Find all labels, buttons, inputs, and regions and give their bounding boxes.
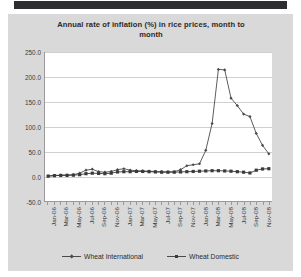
x-axis-tick <box>142 202 143 205</box>
square-marker-icon <box>53 174 56 177</box>
x-axis-tick <box>149 202 150 205</box>
square-marker-icon <box>147 170 150 173</box>
square-marker-icon <box>97 172 100 175</box>
x-axis-tick <box>180 202 181 205</box>
x-axis-tick <box>212 202 213 205</box>
legend-line-sample <box>62 256 81 258</box>
diamond-marker-icon <box>223 68 226 71</box>
square-marker-icon <box>261 167 264 170</box>
x-axis-tick-label: Jul-07 <box>164 207 171 224</box>
square-marker-icon <box>116 170 119 173</box>
square-marker-icon <box>192 170 195 173</box>
square-marker-icon <box>47 175 50 178</box>
x-axis-tick-label: May-08 <box>227 207 234 228</box>
x-axis-tick <box>206 202 207 205</box>
x-axis-tick <box>117 202 118 205</box>
x-axis-tick <box>199 202 200 205</box>
square-marker-icon <box>229 170 232 173</box>
diamond-marker-icon <box>217 68 220 71</box>
x-axis-tick-label: Nov-07 <box>189 207 196 227</box>
square-marker-icon <box>223 169 226 172</box>
x-axis-tick <box>66 202 67 205</box>
square-marker-icon <box>242 171 245 174</box>
x-axis-tick <box>60 202 61 205</box>
square-marker-icon <box>135 170 138 173</box>
x-axis-tick <box>250 202 251 205</box>
square-marker-icon <box>211 169 214 172</box>
y-axis-tick-label: 200.0 <box>25 74 41 81</box>
legend-label: Wheat International <box>84 253 143 260</box>
x-axis-tick <box>104 202 105 205</box>
plot-area <box>44 52 272 202</box>
square-marker-icon <box>198 170 201 173</box>
chart-title: Annual rate of inflation (%) in rice pri… <box>22 20 280 40</box>
diamond-marker-icon <box>198 162 201 165</box>
diamond-marker-icon <box>204 149 207 152</box>
x-axis-tick <box>256 202 257 205</box>
square-marker-icon <box>255 169 258 172</box>
diamond-marker-icon <box>84 169 87 172</box>
diamond-marker-icon <box>255 132 258 135</box>
x-axis-tick-label: Nov-08 <box>265 207 272 227</box>
square-marker-icon <box>175 255 178 258</box>
x-axis-tick <box>263 202 264 205</box>
x-axis-tick <box>237 202 238 205</box>
x-axis-tick <box>269 202 270 205</box>
diamond-marker-icon <box>192 163 195 166</box>
scan-artifact-bar <box>14 1 287 9</box>
x-axis-tick <box>123 202 124 205</box>
square-marker-icon <box>217 169 220 172</box>
x-axis-tick <box>54 202 55 205</box>
x-axis-tick <box>73 202 74 205</box>
x-axis-tick <box>130 202 131 205</box>
x-axis-tick <box>244 202 245 205</box>
series-wheat-international <box>47 68 271 178</box>
y-axis-tick-label: 250.0 <box>25 49 41 56</box>
x-axis-tick <box>111 202 112 205</box>
chart-container: Annual rate of inflation (%) in rice pri… <box>8 14 293 271</box>
chart-legend: Wheat International Wheat Domestic <box>8 253 293 260</box>
x-axis-tick <box>168 202 169 205</box>
x-axis-tick-label: May-06 <box>75 207 82 228</box>
y-axis-tick-label: 100.0 <box>25 124 41 131</box>
x-axis-tick-label: Sep-07 <box>176 207 183 227</box>
x-axis-tick-label: Jul-06 <box>88 207 95 224</box>
square-marker-icon <box>141 170 144 173</box>
square-marker-icon <box>72 174 75 177</box>
diamond-marker-icon <box>248 115 251 118</box>
diamond-marker-icon <box>211 122 214 125</box>
x-axis-tick-label: Mar-07 <box>138 207 145 227</box>
square-marker-icon <box>129 170 132 173</box>
x-axis-tick <box>231 202 232 205</box>
square-marker-icon <box>84 172 87 175</box>
plot-wrapper: 250.0200.0150.0100.050.00.0-50.0 <box>44 52 272 202</box>
legend-item-wheat-international: Wheat International <box>62 253 143 260</box>
y-axis-tick-label: -50.0 <box>26 199 41 206</box>
square-marker-icon <box>65 174 68 177</box>
x-axis-tick <box>187 202 188 205</box>
x-axis-tick <box>136 202 137 205</box>
x-axis-tick-label: Mar-06 <box>62 207 69 227</box>
x-axis-tick <box>92 202 93 205</box>
x-axis-tick <box>161 202 162 205</box>
chart-title-line-2: month <box>139 30 163 39</box>
x-axis-tick-label: Jul-08 <box>240 207 247 224</box>
square-marker-icon <box>160 171 163 174</box>
chart-title-line-1: Annual rate of inflation (%) in rice pri… <box>57 20 245 29</box>
x-axis-tick <box>85 202 86 205</box>
x-axis-tick-label: Jan-08 <box>202 207 209 226</box>
x-axis-tick-label: Sep-06 <box>100 207 107 227</box>
y-axis-tick-label: 0.0 <box>32 174 41 181</box>
square-marker-icon <box>179 170 182 173</box>
legend-line-sample <box>167 256 186 258</box>
x-axis-tick-label: May-07 <box>151 207 158 228</box>
x-axis-tick <box>218 202 219 205</box>
x-axis-tick <box>47 202 48 205</box>
square-marker-icon <box>122 170 125 173</box>
x-axis-tick-label: Jan-06 <box>50 207 57 226</box>
x-axis: Jan-06Mar-06May-06Jul-06Sep-06Nov-06Jan-… <box>44 202 272 254</box>
x-axis-tick <box>155 202 156 205</box>
y-axis-tick-label: 50.0 <box>29 149 41 156</box>
x-axis-tick <box>98 202 99 205</box>
square-marker-icon <box>267 167 270 170</box>
